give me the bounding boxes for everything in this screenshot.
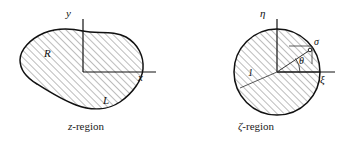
caption-zeta-suffix: -region <box>242 120 274 132</box>
x-axis-label: x <box>138 72 143 83</box>
sigma-point-label: σ <box>314 37 319 47</box>
sigma-point-marker <box>308 48 312 52</box>
unit-radius-label: 1 <box>248 68 253 78</box>
region-label-R: R <box>44 48 51 59</box>
caption-zeta-region: ζ-region <box>196 120 316 132</box>
z-region-panel <box>15 19 156 116</box>
theta-angle-label: θ <box>299 56 304 66</box>
caption-z-region: z-region <box>26 120 146 132</box>
y-axis-label: y <box>66 8 71 19</box>
figure-container: y x R L η ξ 1 θ σ z-region ζ-region <box>0 0 342 143</box>
eta-axis-label: η <box>260 8 265 19</box>
xi-axis-label: ξ <box>320 74 325 85</box>
caption-z-suffix: -region <box>72 120 104 132</box>
boundary-label-L: L <box>103 95 109 106</box>
